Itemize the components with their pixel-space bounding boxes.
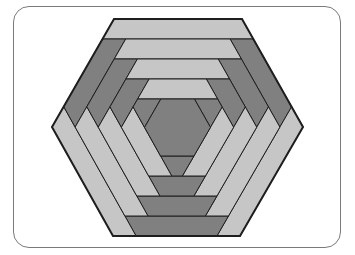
- strip-top-ring-4: [138, 79, 218, 99]
- strip-bottom-ring-2: [137, 196, 217, 216]
- strip-bottom-ring-1: [125, 216, 229, 236]
- hexagon-diagram: [0, 0, 355, 255]
- strip-top-ring-2: [114, 39, 241, 59]
- hexagon-strips: [52, 19, 303, 236]
- strip-top-ring-1: [103, 19, 254, 39]
- strip-top-ring-3: [126, 59, 230, 79]
